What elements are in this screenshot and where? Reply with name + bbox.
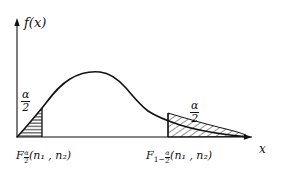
right-critical-value-label: F1−α2(n₁ , n₂) <box>146 150 212 164</box>
right-subscript-prefix: 1− <box>154 155 165 164</box>
x-axis-label-text: x <box>259 142 266 156</box>
alpha-symbol-right: α <box>190 100 199 113</box>
y-axis-arrow-icon <box>14 18 19 26</box>
x-axis-arrow-icon <box>244 134 252 139</box>
alpha-symbol-left: α <box>21 89 30 102</box>
left-critical-value-label: Fα2(n₁ , n₂) <box>16 150 71 164</box>
left-critical-symbol: F <box>16 149 24 162</box>
right-critical-arguments: (n₁ , n₂) <box>170 149 212 162</box>
y-axis-label: f(x) <box>24 16 46 29</box>
alpha-over-two-fraction-left: α 2 <box>21 89 30 113</box>
left-tail-area-label: α 2 <box>21 89 30 113</box>
left-critical-arguments: (n₁ , n₂) <box>29 149 71 162</box>
y-axis-label-text: f(x) <box>24 15 46 30</box>
right-tail-area-label: α 2 <box>190 100 199 124</box>
f-distribution-figure: f(x) x α 2 α 2 Fα2(n₁ , n₂) F1−α2(n₁ , n… <box>0 0 283 176</box>
alpha-over-two-fraction-right: α 2 <box>190 100 199 124</box>
two-symbol-left: 2 <box>21 102 30 114</box>
x-axis-label: x <box>259 143 266 155</box>
two-symbol-right: 2 <box>190 113 199 125</box>
right-critical-symbol: F <box>146 149 154 162</box>
